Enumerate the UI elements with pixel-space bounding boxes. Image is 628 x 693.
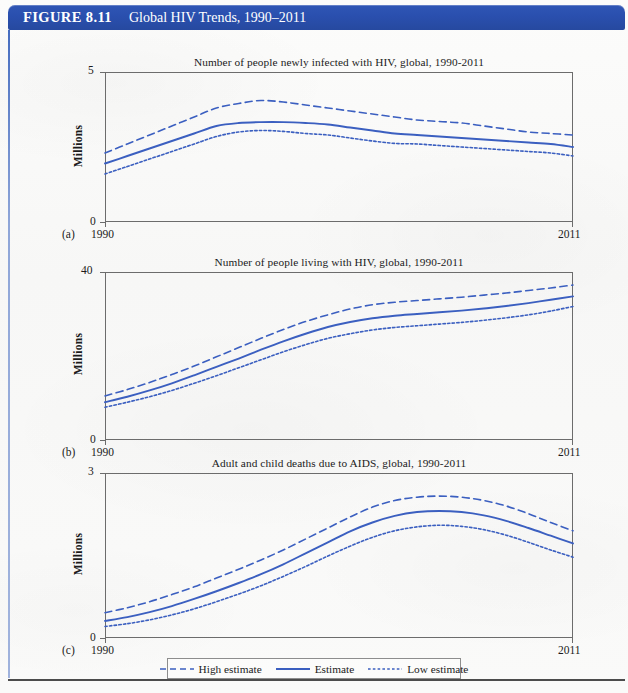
legend-estimate-label: Estimate xyxy=(315,663,355,675)
panel-b-title: Number of people living with HIV, global… xyxy=(105,256,573,268)
panel-b-letter: (b) xyxy=(62,446,75,458)
panel-c-letter: (c) xyxy=(62,644,75,656)
panel-a-title: Number of people newly infected with HIV… xyxy=(105,56,573,68)
panel-a-curves xyxy=(105,72,573,222)
legend-item-low: Low estimate xyxy=(368,663,468,675)
bottom-horizontal-rule xyxy=(8,679,625,681)
panel-a-x-start-tickmark xyxy=(105,222,106,227)
figure-header-banner: FIGURE 8.11 Global HIV Trends, 1990–2011 xyxy=(8,5,625,30)
legend-high-estimate-label: High estimate xyxy=(199,663,262,675)
panel-a-x-end-tickmark xyxy=(572,222,573,227)
series-estimate xyxy=(105,511,573,621)
figure-number: FIGURE 8.11 xyxy=(23,9,112,26)
panel-c-y-axis-label: Millions xyxy=(72,524,84,584)
legend-item-high: High estimate xyxy=(160,663,262,675)
panel-a-y-axis-label: Millions xyxy=(72,116,84,176)
legend-high-estimate-swatch xyxy=(160,665,194,673)
legend-low-estimate-label: Low estimate xyxy=(407,663,468,675)
legend-item-estimate: Estimate xyxy=(276,663,355,675)
panel-c-x-start-label: 1990 xyxy=(91,644,114,656)
panel-c-x-end-tickmark xyxy=(572,638,573,643)
panel-c-curves xyxy=(105,473,573,638)
panel-c-title: Adult and child deaths due to AIDS, glob… xyxy=(105,457,573,469)
legend-low-estimate-swatch xyxy=(368,665,402,673)
panel-b-y-max-tick: 40 xyxy=(81,264,93,276)
panel-b-curves xyxy=(105,272,573,440)
panel-b-x-start-tickmark xyxy=(105,440,106,445)
series-low-estimate xyxy=(105,130,573,174)
panel-a-y-min-tick: 0 xyxy=(90,215,96,227)
series-low-estimate xyxy=(105,306,573,407)
panel-c-y-min-tick: 0 xyxy=(90,631,96,643)
panel-a-y-max-tick: 5 xyxy=(88,64,94,76)
legend-estimate-swatch xyxy=(276,665,310,673)
series-high-estimate xyxy=(105,496,573,613)
panel-c-y-max-tick: 3 xyxy=(88,465,94,477)
figure-title: Global HIV Trends, 1990–2011 xyxy=(129,10,306,26)
panel-a-x-start-label: 1990 xyxy=(91,228,114,240)
panel-c-x-end-label: 2011 xyxy=(558,644,581,656)
series-low-estimate xyxy=(105,525,573,626)
chart-legend: High estimate Estimate Low estimate xyxy=(167,658,461,679)
figure-sheet: FIGURE 8.11 Global HIV Trends, 1990–2011… xyxy=(0,0,628,693)
panel-b-y-axis-label: Millions xyxy=(72,324,84,384)
series-high-estimate xyxy=(105,285,573,396)
left-vertical-rule xyxy=(8,30,10,678)
panel-a-x-end-label: 2011 xyxy=(558,228,581,240)
panel-a-letter: (a) xyxy=(62,228,75,240)
panel-b-x-end-tickmark xyxy=(572,440,573,445)
panel-c-x-start-tickmark xyxy=(105,638,106,643)
panel-b-y-min-tick: 0 xyxy=(90,433,96,445)
